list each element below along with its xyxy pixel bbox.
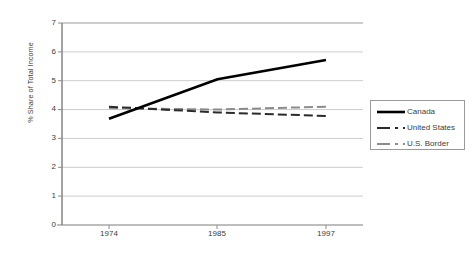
- legend-item-united-states: United States: [371, 121, 466, 135]
- axes: [57, 23, 363, 229]
- legend: Canada United States U.S. Border: [370, 100, 465, 150]
- legend-label-us-border: U.S. Border: [407, 138, 449, 150]
- legend-swatch-canada: [376, 105, 406, 119]
- legend-swatch-us-border: [376, 137, 406, 151]
- line-chart: % Share of Total Income 7 6 5 4 3 2 1 0 …: [0, 0, 476, 264]
- legend-label-canada: Canada: [407, 106, 435, 118]
- gridlines: [62, 23, 363, 196]
- legend-item-us-border: U.S. Border: [371, 137, 466, 151]
- legend-swatch-united-states: [376, 121, 406, 135]
- legend-label-united-states: United States: [407, 122, 455, 134]
- legend-item-canada: Canada: [371, 105, 466, 119]
